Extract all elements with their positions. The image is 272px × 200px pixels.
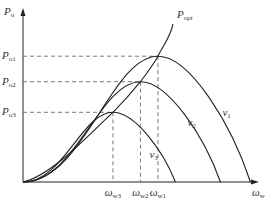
curve-label-v3: v3 <box>149 148 158 162</box>
x-tick-w3: ωw3 <box>105 186 122 200</box>
power-curve-chart: v1v2v3PoptPo1Po2Po3ωw3ωw2ωw1Poωw <box>0 0 272 200</box>
popt-label: Popt <box>176 8 193 22</box>
y-tick-o3: Po3 <box>1 105 16 119</box>
x-axis-arrow <box>251 180 259 185</box>
y-axis-label: Po <box>3 5 15 19</box>
x-axis-label: ωw <box>252 186 266 200</box>
curve-label-v1: v1 <box>222 106 231 120</box>
y-tick-o2: Po2 <box>1 75 16 89</box>
y-tick-o1: Po1 <box>1 49 16 63</box>
x-tick-w2: ωw2 <box>132 186 149 200</box>
x-tick-w1: ωw1 <box>150 186 167 200</box>
y-axis-arrow <box>21 8 26 16</box>
curve-label-v2: v2 <box>187 116 196 130</box>
